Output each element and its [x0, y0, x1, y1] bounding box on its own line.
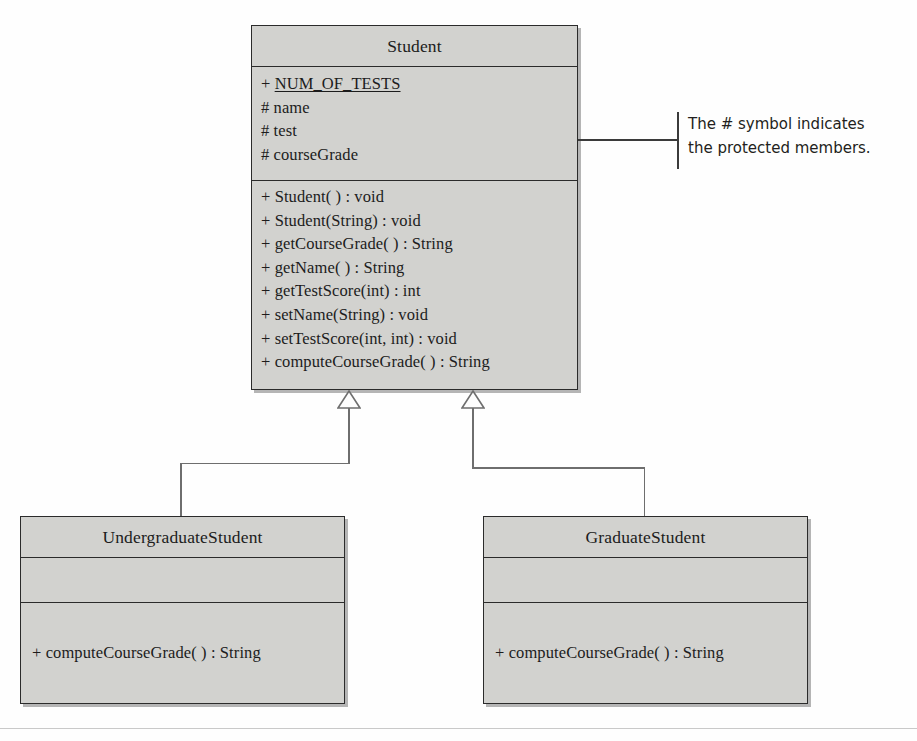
operation-row: + Student( ) : void — [261, 185, 577, 209]
generalization-edge-graduate-horizontal — [472, 467, 645, 469]
operation-row: + getName( ) : String — [261, 256, 577, 280]
class-name-graduate-student: GraduateStudent — [484, 517, 807, 557]
annotation-callout-text: The # symbol indicates the protected mem… — [688, 112, 903, 161]
operation-row: + getCourseGrade( ) : String — [261, 232, 577, 256]
attribute-visibility: # — [261, 145, 269, 164]
attribute-row: + NUM_OF_TESTS — [261, 72, 577, 96]
operation-row: + setName(String) : void — [261, 303, 577, 327]
operation-row: + computeCourseGrade( ) : String — [493, 641, 724, 665]
operations-compartment-graduate-student: + computeCourseGrade( ) : String — [484, 602, 807, 703]
annotation-bracket-bar — [677, 112, 679, 169]
attribute-name: name — [274, 98, 310, 117]
uml-class-diagram-canvas: Student + NUM_OF_TESTS # name # test # c… — [0, 0, 917, 741]
attributes-compartment-undergraduate-student — [21, 557, 344, 602]
attribute-name: test — [274, 121, 297, 140]
operation-row: + setTestScore(int, int) : void — [261, 327, 577, 351]
footer-divider — [0, 728, 917, 729]
attribute-row: # courseGrade — [261, 143, 577, 167]
attribute-visibility: + — [261, 74, 270, 93]
generalization-arrowhead-graduate — [461, 390, 485, 409]
annotation-line-1: The # symbol indicates — [688, 112, 903, 136]
attribute-row: # test — [261, 119, 577, 143]
attributes-compartment-graduate-student — [484, 557, 807, 602]
class-name-undergraduate-student: UndergraduateStudent — [21, 517, 344, 557]
class-box-student[interactable]: Student + NUM_OF_TESTS # name # test # c… — [251, 25, 578, 390]
generalization-edge-undergraduate-horizontal — [180, 463, 350, 465]
generalization-edge-undergraduate-vertical-upper — [348, 408, 350, 464]
attribute-row: # name — [261, 96, 577, 120]
attribute-name: NUM_OF_TESTS — [275, 74, 401, 93]
annotation-line-2: the protected members. — [688, 136, 903, 160]
class-box-undergraduate-student[interactable]: UndergraduateStudent + computeCourseGrad… — [20, 516, 345, 704]
generalization-arrowhead-undergraduate — [337, 390, 361, 409]
annotation-leader-line — [578, 139, 678, 141]
attributes-compartment-student: + NUM_OF_TESTS # name # test # courseGra… — [252, 66, 577, 180]
operation-row: + getTestScore(int) : int — [261, 279, 577, 303]
operation-row: + Student(String) : void — [261, 209, 577, 233]
operation-row: + computeCourseGrade( ) : String — [261, 350, 577, 374]
operations-compartment-student: + Student( ) : void + Student(String) : … — [252, 180, 577, 388]
operations-compartment-undergraduate-student: + computeCourseGrade( ) : String — [21, 602, 344, 703]
generalization-edge-graduate-vertical-lower — [644, 467, 646, 517]
attribute-visibility: # — [261, 98, 269, 117]
class-name-student: Student — [252, 26, 577, 66]
operation-row: + computeCourseGrade( ) : String — [30, 641, 261, 665]
attribute-name: courseGrade — [274, 145, 358, 164]
generalization-edge-undergraduate-vertical-lower — [180, 463, 182, 518]
class-box-graduate-student[interactable]: GraduateStudent + computeCourseGrade( ) … — [483, 516, 808, 704]
attribute-visibility: # — [261, 121, 269, 140]
generalization-edge-graduate-vertical-upper — [472, 408, 474, 468]
